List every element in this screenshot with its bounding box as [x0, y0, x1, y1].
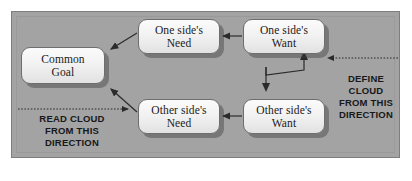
diagram-canvas: Common Goal One side's Need One side's W… — [0, 0, 412, 181]
box-one-sides-need-label: One side's Need — [151, 24, 207, 50]
box-common-goal-label: Common Goal — [37, 53, 88, 79]
box-one-sides-want-label: One side's Want — [256, 24, 312, 50]
box-common-goal[interactable]: Common Goal — [21, 47, 105, 84]
box-one-sides-want[interactable]: One side's Want — [243, 19, 325, 54]
caption-define-cloud-direction: DEFINE CLOUD FROM THIS DIRECTION — [330, 73, 402, 121]
box-other-sides-need[interactable]: Other side's Need — [138, 99, 220, 134]
arrow-one-need-to-common-goal — [111, 33, 137, 49]
conflict-arrow-wants — [262, 51, 308, 92]
box-other-sides-need-label: Other side's Need — [147, 104, 210, 130]
box-other-sides-want[interactable]: Other side's Want — [243, 99, 325, 134]
box-other-sides-want-label: Other side's Want — [252, 104, 315, 130]
caption-read-cloud-direction: READ CLOUD FROM THIS DIRECTION — [16, 113, 128, 149]
box-one-sides-need[interactable]: One side's Need — [138, 19, 220, 54]
